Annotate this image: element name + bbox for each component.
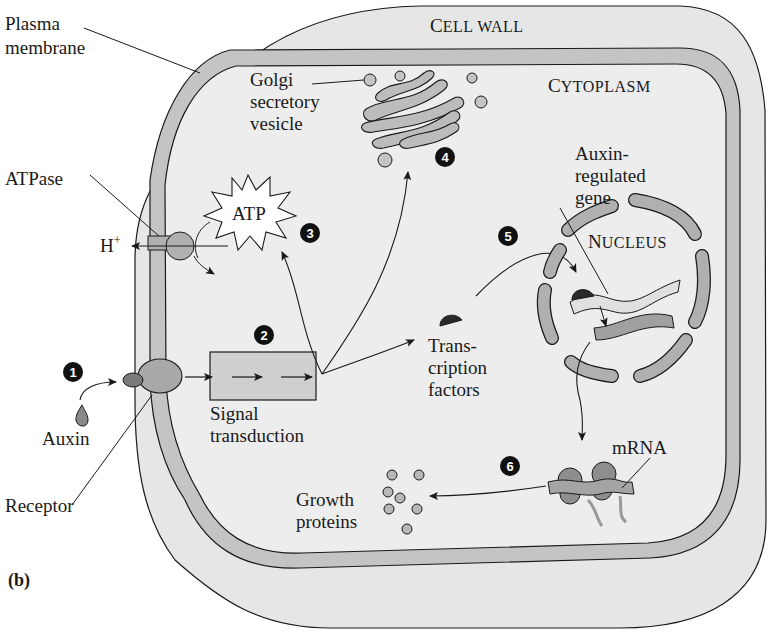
h-plus-label: H+ <box>100 233 121 256</box>
step-badge-5: 5 <box>498 226 518 246</box>
receptor <box>123 359 182 393</box>
step-badge-3: 3 <box>300 223 320 243</box>
svg-text:1: 1 <box>69 365 76 380</box>
plasma-membrane-label: Plasma membrane <box>5 13 85 58</box>
auxin-signaling-diagram: CELL WALL CYTOPLASM Plasma membrane Golg… <box>0 0 771 637</box>
plasma-membrane-leader <box>84 28 200 73</box>
step-badge-4: 4 <box>435 147 455 167</box>
step-badge-2: 2 <box>254 325 274 345</box>
mrna-label: mRNA <box>612 437 667 458</box>
svg-text:5: 5 <box>504 229 511 244</box>
step-badge-1: 1 <box>63 362 83 382</box>
signal-transduction-box <box>210 352 316 400</box>
auxin-binding-arrow <box>80 382 116 400</box>
atpase-label: ATPase <box>5 168 63 189</box>
growth-proteins-label: Growth proteins <box>296 489 359 532</box>
svg-text:6: 6 <box>506 459 513 474</box>
svg-text:3: 3 <box>306 226 313 241</box>
nucleus-label: NUCLEUS <box>588 231 667 252</box>
cytoplasm-label: CYTOPLASM <box>548 75 651 96</box>
atp-label: ATP <box>232 203 266 224</box>
panel-label: (b) <box>8 570 30 591</box>
svg-text:2: 2 <box>260 328 267 343</box>
auxin-label: Auxin <box>42 428 90 449</box>
auxin-molecule-icon <box>76 405 88 426</box>
receptor-label: Receptor <box>5 495 74 516</box>
svg-text:4: 4 <box>441 150 449 165</box>
step-badge-6: 6 <box>500 456 520 476</box>
cell-wall-label: CELL WALL <box>430 15 524 36</box>
